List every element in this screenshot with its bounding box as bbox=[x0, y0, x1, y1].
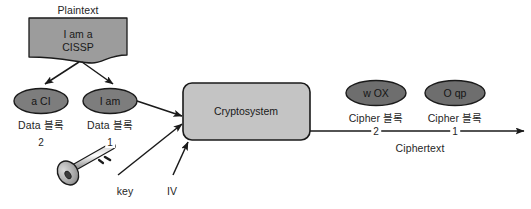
iv-label: IV bbox=[167, 185, 177, 197]
cipher-block-number-1: 1 bbox=[450, 126, 460, 137]
data-block-number-2: 2 bbox=[36, 137, 46, 148]
cipher-block-ellipse-1 bbox=[425, 81, 485, 106]
data-block-ellipse-1 bbox=[83, 89, 137, 114]
plaintext-title-label: Plaintext bbox=[57, 4, 98, 16]
cryptosystem-box bbox=[183, 83, 310, 140]
plaintext-box bbox=[29, 18, 127, 63]
data-block-ellipse-2 bbox=[14, 89, 68, 114]
data-block-caption-2: Data 블록 bbox=[18, 119, 64, 131]
key-icon bbox=[53, 146, 112, 189]
data-block-caption-1: Data 블록 bbox=[87, 119, 133, 131]
cipher-block-number-2: 2 bbox=[371, 126, 381, 137]
data-block-number-1: 1 bbox=[105, 137, 115, 148]
arrow-plaintext-to-block-2 bbox=[45, 62, 79, 84]
ciphertext-label: Ciphertext bbox=[396, 142, 445, 154]
arrow-key-to-cryptosystem bbox=[118, 124, 182, 175]
arrow-iv-to-cryptosystem bbox=[173, 142, 188, 175]
key-label: key bbox=[117, 185, 134, 197]
arrow-plaintext-to-block-1 bbox=[82, 62, 113, 84]
cryptosystem-diagram: Plaintext I am a CISSP a CI I am Data 블록… bbox=[0, 0, 531, 209]
arrow-block-to-cryptosystem bbox=[137, 101, 182, 116]
cipher-block-caption-2: Cipher 블록 bbox=[349, 112, 404, 124]
cipher-block-caption-1: Cipher 블록 bbox=[428, 112, 483, 124]
cipher-block-ellipse-2 bbox=[346, 81, 406, 106]
diagram-canvas bbox=[0, 0, 531, 209]
